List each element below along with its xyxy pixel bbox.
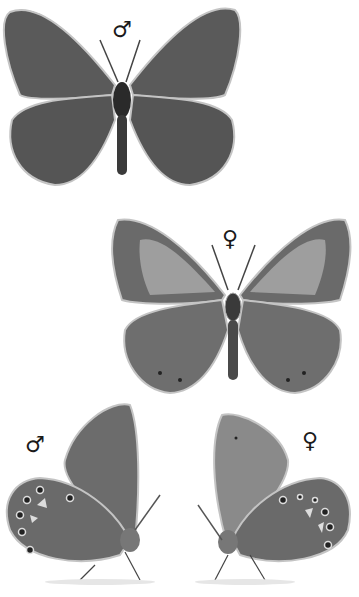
male-underside-symbol: ♂ (25, 432, 45, 457)
male-symbol: ♂ (112, 17, 132, 42)
female-underside-symbol: ♀ (302, 428, 318, 453)
female-symbol: ♀ (222, 226, 238, 251)
female-underside-butterfly (195, 414, 350, 585)
butterfly-plate: ♂ ♀ (0, 0, 359, 597)
butterfly-illustrations: ♂ ♀ (0, 0, 359, 597)
